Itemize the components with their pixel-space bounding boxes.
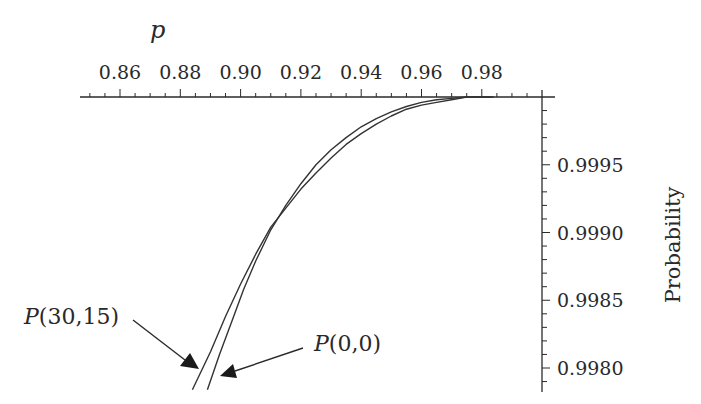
x-tick-label: 0.88 [159,61,201,83]
y-tick-label: 0.9985 [557,289,623,311]
x-tick-label: 0.94 [340,61,382,83]
y-tick-label: 0.9980 [557,357,623,379]
y-axis: 0.99950.99900.99850.9980 [542,90,623,392]
annotation-arrow-line [133,320,185,360]
x-axis: 0.860.880.900.920.940.960.98 [80,61,555,97]
svg-text:P(30,15): P(30,15) [23,304,119,329]
y-tick-label: 0.9990 [557,222,623,244]
annotation-p30-15-text: (30,15) [39,304,119,329]
x-tick-label: 0.86 [99,61,141,83]
arrowhead-icon [180,353,199,369]
annotation-p0-0-italic: P [313,331,330,356]
svg-text:P(0,0): P(0,0) [313,331,381,356]
y-tick-label: 0.9995 [557,154,623,176]
x-tick-label: 0.98 [461,61,503,83]
annotation-p0-0: P(0,0) [220,331,381,378]
annotation-p30-15: P(30,15) [23,304,199,369]
annotation-p30-15-italic: P [23,304,40,329]
x-tick-label: 0.96 [400,61,442,83]
x-tick-label: 0.90 [219,61,261,83]
arrowhead-icon [220,364,237,378]
y-axis-label: Probability [661,187,685,304]
x-tick-label: 0.92 [280,61,322,83]
x-axis-label: p [150,16,165,44]
annotation-p0-0-text: (0,0) [329,331,381,356]
probability-chart: 0.860.880.900.920.940.960.98 0.99950.999… [0,0,701,404]
annotation-arrow-line [235,348,303,371]
